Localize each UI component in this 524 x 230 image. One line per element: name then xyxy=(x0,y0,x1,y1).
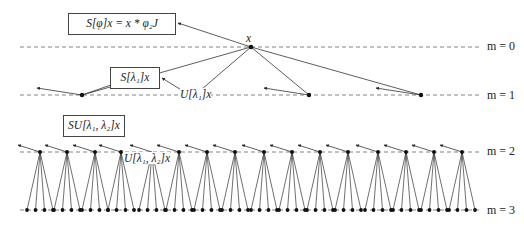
level3-node xyxy=(363,208,367,212)
level3-node xyxy=(428,208,432,212)
level3-node xyxy=(473,208,477,212)
level3-node xyxy=(305,208,309,212)
level3-node xyxy=(164,208,168,212)
root-output-box: S[φ]x = x * φ₂J xyxy=(68,13,176,35)
level3-node xyxy=(381,208,385,212)
level2-node xyxy=(460,150,464,154)
level-label-m0: m = 0 xyxy=(487,39,515,54)
level3-node xyxy=(146,208,150,212)
level3-node xyxy=(98,208,102,212)
level2-node xyxy=(38,150,42,154)
level2-node xyxy=(119,150,123,154)
level3-node xyxy=(286,208,290,212)
level2-node xyxy=(290,150,294,154)
level-label-m2: m = 2 xyxy=(487,144,515,159)
level1-output-box: S[λ₁]x xyxy=(110,67,160,89)
level3-node xyxy=(277,208,281,212)
level3-node xyxy=(173,208,177,212)
level3-node xyxy=(465,208,469,212)
level3-node xyxy=(124,208,128,212)
level3-node xyxy=(210,208,214,212)
level1-node xyxy=(307,93,311,97)
level2-node xyxy=(205,150,209,154)
level3-node xyxy=(437,208,441,212)
level3-node xyxy=(34,208,38,212)
level3-node xyxy=(391,208,395,212)
level-label-m1: m = 1 xyxy=(487,88,515,103)
level3-node xyxy=(342,208,346,212)
level2-node xyxy=(318,150,322,154)
level3-node xyxy=(249,208,253,212)
level-label-m3: m = 3 xyxy=(487,203,515,218)
level2-node xyxy=(432,150,436,154)
level3-node xyxy=(43,208,47,212)
level2-node xyxy=(233,150,237,154)
level3-node xyxy=(80,208,84,212)
level3-node xyxy=(333,208,337,212)
level3-node xyxy=(70,208,74,212)
level3-node xyxy=(115,208,119,212)
level3-node xyxy=(137,208,141,212)
level3-node xyxy=(400,208,404,212)
root-node-label: x xyxy=(246,32,251,44)
level2-node xyxy=(262,150,266,154)
level2-node xyxy=(93,150,97,154)
level3-node xyxy=(220,208,224,212)
level3-node xyxy=(314,208,318,212)
level3-node xyxy=(201,208,205,212)
level3-node xyxy=(192,208,196,212)
level3-node xyxy=(25,208,29,212)
level3-node xyxy=(409,208,413,212)
level2-node xyxy=(404,150,408,154)
level1-node xyxy=(80,93,84,97)
level3-node xyxy=(52,208,56,212)
level1-node-label: U[λ₁]x xyxy=(180,88,211,100)
level3-node xyxy=(295,208,299,212)
level2-output-box: SU[λ₁, λ₂]x xyxy=(63,115,125,137)
level3-node xyxy=(155,208,159,212)
level3-node xyxy=(419,208,423,212)
level2-node xyxy=(346,150,350,154)
root-node xyxy=(249,45,254,50)
level3-node xyxy=(182,208,186,212)
level2-node xyxy=(65,150,69,154)
level3-node xyxy=(89,208,93,212)
level1-node xyxy=(419,93,423,97)
level3-node xyxy=(359,208,363,212)
level3-node xyxy=(372,208,376,212)
level2-node-label: U[λ₁, λ₂]x xyxy=(124,152,170,164)
level3-node xyxy=(267,208,271,212)
level3-node xyxy=(106,208,110,212)
level3-node xyxy=(447,208,451,212)
level2-node xyxy=(177,150,181,154)
level3-node xyxy=(323,208,327,212)
scattering-tree-diagram: x S[φ]x = x * φ₂J S[λ₁]x SU[λ₁, λ₂]x U[λ… xyxy=(0,0,524,230)
level3-node xyxy=(351,208,355,212)
level3-node xyxy=(61,208,65,212)
level3-node xyxy=(258,208,262,212)
level3-node xyxy=(238,208,242,212)
level3-node xyxy=(132,208,136,212)
level2-node xyxy=(376,150,380,154)
level3-node xyxy=(456,208,460,212)
level3-node xyxy=(229,208,233,212)
